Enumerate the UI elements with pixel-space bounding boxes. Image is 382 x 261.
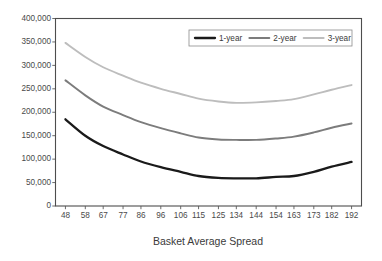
x-axis-tick-label: 154 [269, 211, 283, 220]
legend-label-2-year: 2-year [273, 34, 296, 43]
y-axis-tick-label: 0 [46, 201, 51, 210]
y-axis-tick-label: 350,000 [21, 37, 51, 46]
y-axis-tick-label: 200,000 [21, 107, 51, 116]
x-axis-tick-label: 77 [119, 211, 129, 220]
x-axis-tick-label: 106 [174, 211, 188, 220]
y-axis-tick-labels: 050,000100,000150,000200,000250,000300,0… [21, 14, 51, 211]
y-axis-tick-label: 400,000 [21, 14, 51, 23]
x-axis-tick-label: 96 [156, 211, 166, 220]
x-axis-tick-label: 125 [212, 211, 226, 220]
y-axis-tick-label: 250,000 [21, 84, 51, 93]
y-axis-tick-label: 150,000 [21, 131, 51, 140]
x-axis-tick-label: 48 [61, 211, 71, 220]
chart-container: 050,000100,000150,000200,000250,000300,0… [0, 0, 382, 261]
chart-legend: 1-year2-year3-year [189, 30, 352, 46]
x-axis-title: Basket Average Spread [153, 235, 263, 247]
x-axis-tick-label: 173 [307, 211, 321, 220]
x-axis-tick-label: 115 [192, 211, 205, 220]
x-axis-tick-label: 144 [249, 211, 263, 220]
x-axis-tick-label: 134 [229, 211, 243, 220]
y-axis-tick-label: 50,000 [26, 178, 51, 187]
y-axis-tick-label: 100,000 [21, 154, 51, 163]
x-axis-tick-label: 163 [287, 211, 301, 220]
y-axis-tick-label: 300,000 [21, 61, 51, 70]
x-axis-tick-label: 67 [99, 211, 109, 220]
line-chart: 050,000100,000150,000200,000250,000300,0… [0, 0, 382, 261]
x-axis-tick-label: 182 [325, 211, 339, 220]
legend-label-1-year: 1-year [219, 34, 242, 43]
x-axis-tick-label: 86 [136, 211, 146, 220]
legend-label-3-year: 3-year [328, 34, 351, 43]
x-axis-tick-label: 58 [81, 211, 91, 220]
x-axis-tick-label: 192 [345, 211, 359, 220]
